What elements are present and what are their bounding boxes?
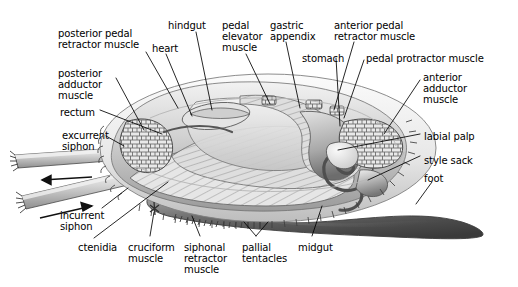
anatomy-figure: posterior pedal retractor musclehindguth… [0, 0, 518, 287]
label-hindgut: hindgut [168, 20, 206, 31]
label-pedal-elevator-muscle: pedal elevator muscle [222, 20, 262, 54]
label-midgut: midgut [298, 242, 333, 253]
label-cruciform-muscle: cruciform muscle [128, 242, 175, 264]
label-pallial-tentacles: pallial tentacles [242, 242, 287, 264]
label-gastric-appendix: gastric appendix [270, 20, 316, 42]
label-excurrent-siphon: excurrent siphon [62, 130, 109, 152]
label-ctenidia: ctenidia [78, 242, 117, 253]
label-heart: heart [152, 43, 178, 54]
label-posterior-pedal-retractor-muscle: posterior pedal retractor muscle [58, 28, 139, 50]
label-anterior-adductor-muscle: anterior adductor muscle [423, 72, 467, 106]
label-style-sack: style sack [424, 155, 473, 166]
label-siphonal-retractor-muscle: siphonal retractor muscle [184, 242, 227, 276]
label-rectum: rectum [60, 107, 95, 118]
label-stomach: stomach [302, 53, 344, 64]
label-foot: foot [424, 173, 443, 184]
label-posterior-adductor-muscle: posterior adductor muscle [58, 68, 102, 102]
label-labial-palp: labial palp [424, 131, 475, 142]
label-pedal-protractor-muscle: pedal protractor muscle [366, 53, 484, 64]
label-incurrent-siphon: incurrent siphon [60, 210, 104, 232]
label-anterior-pedal-retractor-muscle: anterior pedal retractor muscle [334, 20, 415, 42]
